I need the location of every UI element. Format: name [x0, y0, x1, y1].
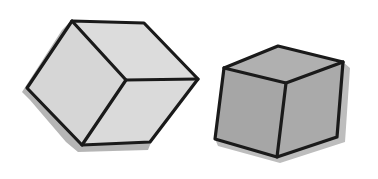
- left-cube: [22, 21, 198, 152]
- right-cube: [215, 46, 350, 163]
- cubes-illustration: [0, 0, 378, 179]
